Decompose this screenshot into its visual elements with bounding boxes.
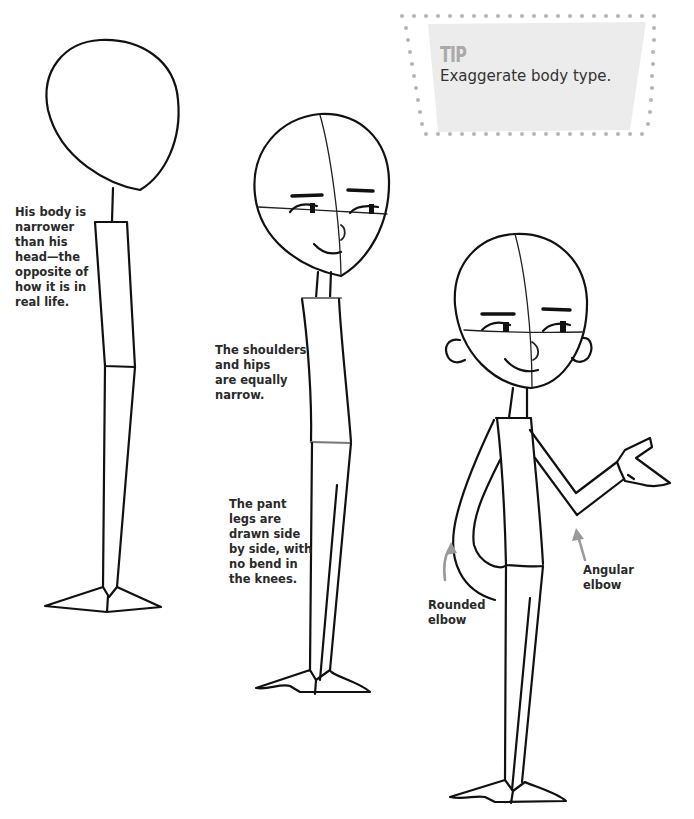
character-drawings xyxy=(0,0,694,819)
legs xyxy=(103,366,135,587)
feet xyxy=(45,587,161,612)
hip-line xyxy=(311,442,351,443)
nose xyxy=(341,225,345,240)
head-guideline-horizontal xyxy=(258,207,387,214)
torso xyxy=(302,299,351,442)
sketch-page: TIP Exaggerate body type. xyxy=(0,0,694,819)
torso xyxy=(95,222,135,367)
pupil-left xyxy=(310,203,315,213)
shoes xyxy=(256,670,370,694)
pant-legs xyxy=(310,443,351,680)
caption-angular-elbow: Angular elbow xyxy=(583,563,634,593)
head-oval xyxy=(47,40,179,190)
caption-pant-legs: The pant legs are drawn side by side, wi… xyxy=(229,497,312,587)
pupil-right xyxy=(369,204,374,214)
ear-left xyxy=(446,340,465,363)
shoes xyxy=(450,780,566,803)
brow-right xyxy=(348,190,373,191)
figure-stage-2 xyxy=(254,114,389,694)
pupil-left xyxy=(503,322,509,332)
pupil-right xyxy=(560,321,566,332)
brow-right xyxy=(543,309,570,310)
hand xyxy=(617,438,670,486)
caption-shoulders-hips: The shoulders and hips are equally narro… xyxy=(215,343,306,403)
neck xyxy=(316,272,331,298)
arrow-angular-elbow-icon xyxy=(572,528,585,560)
mouth xyxy=(314,244,341,253)
head-guideline-vertical xyxy=(515,234,532,388)
caption-body-narrower: His body is narrower than his head—the o… xyxy=(15,205,88,310)
pants xyxy=(505,565,543,790)
neck xyxy=(112,188,113,221)
brow-left xyxy=(292,195,322,196)
figure-stage-3 xyxy=(446,234,670,803)
torso xyxy=(496,418,543,565)
nose xyxy=(532,342,538,360)
arm-rounded-elbow xyxy=(453,420,505,600)
arm-angular-elbow xyxy=(530,430,624,515)
figure-stage-1 xyxy=(45,40,179,612)
neck xyxy=(509,388,527,418)
caption-rounded-elbow: Rounded elbow xyxy=(428,598,485,628)
